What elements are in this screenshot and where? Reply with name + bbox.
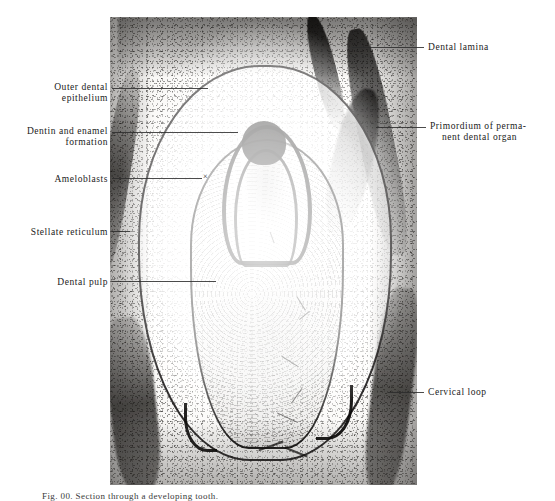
label-dental-lamina: Dental lamina bbox=[428, 42, 489, 53]
label-line-1: Outer dental bbox=[54, 82, 108, 92]
leader-stellate-reticulum bbox=[112, 231, 130, 232]
label-line-1: Dental pulp bbox=[57, 277, 108, 287]
label-line-1: Primordium of perma- bbox=[430, 121, 526, 131]
ameloblasts-pointer-mark: × bbox=[203, 172, 208, 181]
leader-dental-lamina bbox=[352, 47, 424, 48]
label-dentin-and-enamel-formation: Dentin and enamel formation bbox=[27, 126, 108, 148]
label-outer-dental-epithelium: Outer dental epithelium bbox=[54, 82, 108, 104]
label-ameloblasts: Ameloblasts bbox=[54, 174, 108, 185]
label-line-2: formation bbox=[27, 137, 108, 148]
leader-outer-dental-epithelium bbox=[112, 88, 208, 89]
label-line-1: Ameloblasts bbox=[54, 174, 108, 184]
label-dental-pulp: Dental pulp bbox=[57, 277, 108, 288]
leader-dental-pulp bbox=[112, 281, 216, 282]
leader-cervical-loop bbox=[388, 392, 424, 393]
label-line-1: Dental lamina bbox=[428, 42, 489, 52]
label-line-1: Dentin and enamel bbox=[27, 126, 108, 136]
leader-dentin-and-enamel-formation bbox=[112, 132, 238, 133]
label-line-2: epithelium bbox=[54, 93, 108, 104]
leader-primordium-of-permanent-dental-organ bbox=[376, 127, 426, 128]
label-cervical-loop: Cervical loop bbox=[428, 387, 487, 398]
label-line-1: Stellate reticulum bbox=[31, 227, 108, 237]
label-line-2: nent dental organ bbox=[442, 132, 526, 143]
figure-caption: Fig. 00. Section through a developing to… bbox=[42, 491, 512, 501]
label-line-1: Cervical loop bbox=[428, 387, 487, 397]
label-stellate-reticulum: Stellate reticulum bbox=[31, 227, 108, 238]
label-primordium-of-permanent-dental-organ: Primordium of perma- nent dental organ bbox=[430, 121, 526, 143]
leader-ameloblasts bbox=[112, 178, 202, 179]
